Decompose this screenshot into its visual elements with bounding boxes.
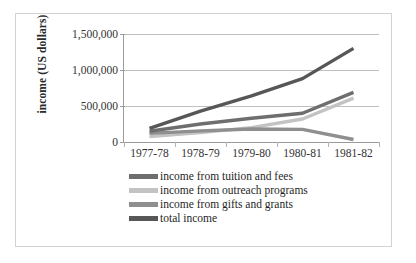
x-tick-label: 1978-79 — [181, 147, 219, 159]
x-axis-line — [123, 142, 379, 143]
x-tick-label: 1981-82 — [334, 147, 372, 159]
legend-item[interactable]: total income — [129, 211, 308, 225]
chart-legend: income from tuition and feesincome from … — [129, 169, 308, 225]
y-axis-title: income (US dollars) — [36, 0, 48, 134]
x-tick-label: 1977-78 — [130, 147, 168, 159]
legend-swatch — [129, 188, 158, 193]
series-lines — [124, 34, 379, 142]
x-axis-tick-labels: 1977-781978-791979-801980-811981-82 — [124, 147, 379, 163]
x-tick-label: 1979-80 — [232, 147, 270, 159]
legend-swatch — [129, 174, 158, 179]
legend-label: income from tuition and fees — [160, 169, 293, 183]
y-tick-label: 1,000,000 — [72, 64, 118, 76]
legend-label: total income — [160, 211, 217, 225]
y-tick-label: 500,000 — [81, 100, 118, 112]
legend-item[interactable]: income from outreach programs — [129, 183, 308, 197]
legend-swatch — [129, 216, 158, 221]
y-tick-label: 0 — [112, 136, 118, 148]
legend-label: income from outreach programs — [160, 183, 308, 197]
legend-item[interactable]: income from tuition and fees — [129, 169, 308, 183]
legend-swatch — [129, 202, 158, 207]
legend-label: income from gifts and grants — [160, 197, 293, 211]
x-tick — [379, 142, 380, 147]
series-line — [150, 48, 354, 128]
chart-figure: income (US dollars) 0500,0001,000,0001,5… — [15, 13, 392, 247]
x-tick-label: 1980-81 — [283, 147, 321, 159]
plot-area: 0500,0001,000,0001,500,000 — [124, 34, 379, 142]
y-tick-label: 1,500,000 — [72, 28, 118, 40]
legend-item[interactable]: income from gifts and grants — [129, 197, 308, 211]
